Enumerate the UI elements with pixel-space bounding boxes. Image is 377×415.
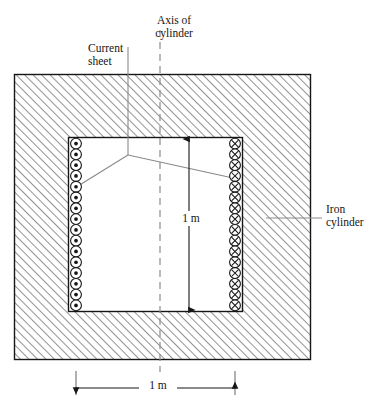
iron-cylinder-current-sheet-diagram — [0, 0, 377, 415]
dot-glyph — [74, 174, 78, 178]
dot-glyph — [74, 217, 78, 221]
dot-glyph — [74, 185, 78, 189]
dot-glyph — [74, 271, 78, 275]
label-dimension-vertical: 1 m — [174, 211, 208, 226]
dot-glyph — [74, 250, 78, 254]
dot-glyph — [74, 142, 78, 146]
cylinder-bore-interior — [69, 138, 243, 312]
dot-glyph — [74, 282, 78, 286]
dot-glyph — [74, 163, 78, 167]
dot-glyph — [74, 228, 78, 232]
dot-glyph — [74, 196, 78, 200]
dot-glyph — [74, 153, 78, 157]
dot-glyph — [74, 304, 78, 308]
label-axis-of-cylinder: Axis ofcylinder — [139, 14, 209, 40]
inner-white-rectangle — [69, 138, 243, 312]
dot-glyph — [74, 239, 78, 243]
label-dimension-horizontal: 1 m — [139, 379, 177, 392]
dot-glyph — [74, 206, 78, 210]
dot-glyph — [74, 260, 78, 264]
dot-glyph — [74, 293, 78, 297]
label-iron-cylinder: Ironcylinder — [326, 203, 376, 229]
label-current-sheet: Currentsheet — [88, 42, 150, 68]
